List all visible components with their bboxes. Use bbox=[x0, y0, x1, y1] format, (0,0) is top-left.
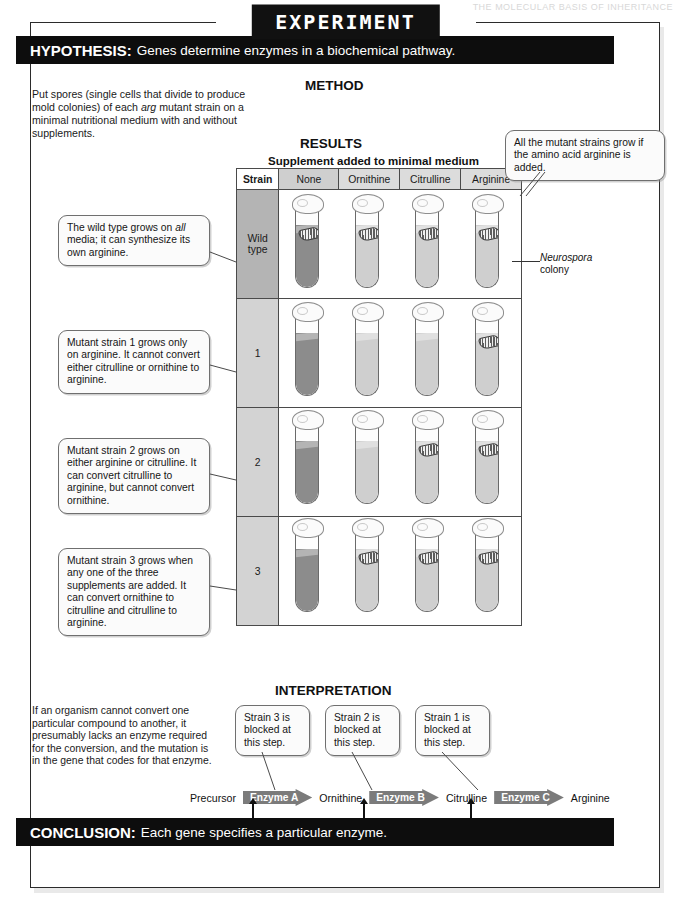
test-tube bbox=[293, 410, 321, 506]
tube-glass bbox=[355, 532, 379, 612]
method-text-italic: arg bbox=[141, 101, 156, 113]
test-tube bbox=[353, 410, 381, 506]
strain-cell-1: 1 bbox=[237, 299, 279, 408]
cotton-plug bbox=[292, 302, 324, 322]
pathway-term-precursor: Precursor bbox=[185, 792, 241, 804]
results-heading: RESULTS bbox=[300, 136, 362, 151]
test-tube bbox=[293, 194, 321, 290]
tube-glass bbox=[355, 208, 379, 288]
cotton-plug bbox=[352, 302, 384, 322]
test-tube bbox=[353, 302, 381, 398]
tube-glass bbox=[475, 208, 499, 288]
callout-strain-3: Mutant strain 3 grows when any one of th… bbox=[58, 548, 210, 636]
callout-blocked-strain-2: Strain 2 is blocked at this step. bbox=[325, 705, 400, 756]
pathway-term-arginine: Arginine bbox=[566, 792, 615, 804]
cotton-plug bbox=[412, 194, 444, 214]
neurospora-leader-line bbox=[512, 261, 540, 262]
cotton-plug bbox=[472, 194, 504, 214]
test-tube bbox=[473, 518, 501, 614]
callout-strain-2: Mutant strain 2 grows on either arginine… bbox=[58, 438, 210, 514]
page-running-header: THE MOLECULAR BASIS OF INHERITANCE bbox=[473, 2, 673, 12]
tube-glass bbox=[355, 424, 379, 504]
tube-glass bbox=[475, 316, 499, 396]
test-tube bbox=[413, 194, 441, 290]
tube-glass bbox=[295, 424, 319, 504]
cotton-plug bbox=[412, 302, 444, 322]
cotton-plug bbox=[412, 518, 444, 538]
cotton-plug bbox=[352, 194, 384, 214]
test-tube bbox=[353, 194, 381, 290]
experiment-tab-label: EXPERIMENT bbox=[251, 5, 439, 40]
test-tube bbox=[473, 194, 501, 290]
hypothesis-label: HYPOTHESIS: bbox=[30, 42, 132, 59]
strain-cell-wild: Wild type bbox=[237, 190, 279, 299]
cotton-plug bbox=[292, 194, 324, 214]
col-header-citrulline: Citrulline bbox=[400, 169, 461, 190]
tube-glass bbox=[415, 424, 439, 504]
growth-medium bbox=[356, 333, 378, 395]
tube-row-wild bbox=[285, 188, 525, 296]
cotton-plug bbox=[352, 410, 384, 430]
enzyme-b-arrow: Enzyme B bbox=[369, 789, 439, 806]
col-header-none: None bbox=[279, 169, 339, 190]
neurospora-rest: colony bbox=[540, 264, 569, 275]
interpretation-heading: INTERPRETATION bbox=[275, 683, 392, 698]
enzyme-c-arrow: Enzyme C bbox=[494, 789, 564, 806]
table-header-row: Strain None Ornithine Citrulline Arginin… bbox=[237, 169, 522, 190]
cotton-plug bbox=[352, 518, 384, 538]
test-tube bbox=[293, 302, 321, 398]
cotton-plug bbox=[472, 302, 504, 322]
test-tube bbox=[413, 302, 441, 398]
callout-strain-1: Mutant strain 1 grows only on arginine. … bbox=[58, 330, 210, 394]
growth-medium bbox=[416, 333, 438, 395]
tube-row-3 bbox=[285, 512, 525, 620]
growth-medium bbox=[296, 441, 318, 503]
tube-glass bbox=[475, 532, 499, 612]
method-text: Put spores (single cells that divide to … bbox=[32, 88, 247, 140]
tube-glass bbox=[415, 316, 439, 396]
cotton-plug bbox=[292, 518, 324, 538]
callout-arginine-note: All the mutant strains grow if the amino… bbox=[505, 130, 665, 181]
conclusion-bar: CONCLUSION: Each gene specifies a partic… bbox=[16, 818, 614, 846]
growth-medium bbox=[296, 333, 318, 395]
tube-glass bbox=[295, 316, 319, 396]
strain-cell-3: 3 bbox=[237, 517, 279, 626]
growth-medium bbox=[296, 549, 318, 611]
conclusion-text: Each gene specifies a particular enzyme. bbox=[141, 825, 387, 840]
hypothesis-bar: HYPOTHESIS: Genes determine enzymes in a… bbox=[16, 36, 614, 64]
cotton-plug bbox=[292, 410, 324, 430]
callout-blocked-strain-1: Strain 1 is blocked at this step. bbox=[415, 705, 490, 756]
tube-glass bbox=[355, 316, 379, 396]
growth-medium bbox=[356, 441, 378, 503]
col-header-strain: Strain bbox=[237, 169, 279, 190]
interpretation-text: If an organism cannot convert one partic… bbox=[32, 705, 217, 768]
tube-glass bbox=[415, 532, 439, 612]
test-tube bbox=[353, 518, 381, 614]
test-tube bbox=[413, 410, 441, 506]
test-tube bbox=[293, 518, 321, 614]
method-heading: METHOD bbox=[305, 78, 364, 93]
tube-glass bbox=[295, 208, 319, 288]
neurospora-colony-label: Neurospora colony bbox=[540, 252, 592, 276]
tube-row-1 bbox=[285, 296, 525, 404]
col-header-ornithine: Ornithine bbox=[339, 169, 400, 190]
callout-wild-type: The wild type grows on all media; it can… bbox=[58, 215, 210, 266]
test-tube bbox=[473, 410, 501, 506]
callout-wild-italic: all bbox=[175, 222, 185, 233]
neurospora-italic: Neurospora bbox=[540, 252, 592, 263]
strain-cell-2: 2 bbox=[237, 408, 279, 517]
tube-row-2 bbox=[285, 404, 525, 512]
tube-glass bbox=[295, 532, 319, 612]
callout-wild-c: media; it can synthesize its own arginin… bbox=[67, 234, 190, 257]
cotton-plug bbox=[412, 410, 444, 430]
tube-glass bbox=[475, 424, 499, 504]
cotton-plug bbox=[472, 410, 504, 430]
callout-blocked-strain-3: Strain 3 is blocked at this step. bbox=[235, 705, 310, 756]
supplement-label: Supplement added to minimal medium bbox=[268, 155, 479, 167]
conclusion-label: CONCLUSION: bbox=[30, 824, 136, 841]
tube-glass bbox=[415, 208, 439, 288]
test-tube bbox=[473, 302, 501, 398]
hypothesis-text: Genes determine enzymes in a biochemical… bbox=[137, 43, 456, 58]
callout-wild-a: The wild type grows on bbox=[67, 222, 175, 233]
cotton-plug bbox=[472, 518, 504, 538]
